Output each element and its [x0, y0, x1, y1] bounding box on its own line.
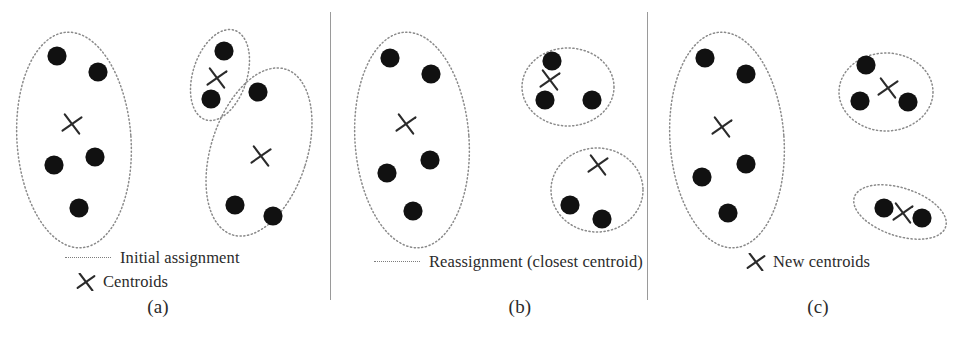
- data-point: [856, 55, 875, 74]
- legend-entry: New centroids: [745, 252, 870, 272]
- data-point: [874, 198, 893, 217]
- centroid-cross-icon: [878, 78, 897, 97]
- data-point: [736, 154, 755, 173]
- data-point: [736, 64, 755, 83]
- panel-c: New centroids(c): [0, 0, 962, 341]
- data-point: [695, 48, 714, 67]
- panel-divider-1: [330, 12, 331, 300]
- centroid-cross-icon: [712, 117, 731, 136]
- cluster-boundary: [839, 53, 933, 131]
- panel-c-legend: New centroids: [745, 252, 870, 272]
- data-point: [692, 167, 711, 186]
- data-point: [898, 92, 917, 111]
- cross-icon: [745, 253, 767, 271]
- data-point: [850, 91, 869, 110]
- cluster-boundary: [847, 174, 953, 249]
- data-point: [718, 203, 737, 222]
- panel-c-canvas: [0, 0, 962, 341]
- centroid-cross-icon: [893, 203, 912, 222]
- kmeans-figure: Initial assignmentCentroids(a)Reassignme…: [0, 0, 962, 341]
- centroid-cross-icon: [748, 254, 765, 271]
- data-point: [912, 208, 931, 227]
- panel-c-caption: (c): [778, 296, 858, 318]
- legend-label: New centroids: [773, 252, 870, 272]
- panel-divider-2: [647, 12, 648, 300]
